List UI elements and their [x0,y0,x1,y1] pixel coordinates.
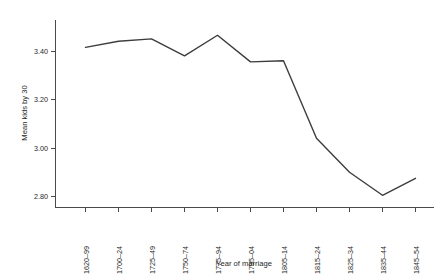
chart-background [0,0,446,279]
y-tick-label-1: 3.00 [34,144,48,153]
y-axis-title: Mean kids by 30 [20,85,29,140]
x-tick-label-9: 1835–44 [379,246,388,274]
chart-figure: 2.80 3.00 3.20 3.40 1620–99 1700–24 1725… [0,0,446,279]
y-tick-label-0: 2.80 [34,192,48,201]
x-tick-label-6: 1805–14 [280,246,289,274]
x-tick-label-0: 1620–99 [82,246,91,274]
x-tick-label-1: 1700–24 [115,246,124,274]
x-axis-title: Year of marriage [216,259,272,268]
y-tick-label-2: 3.20 [34,95,48,104]
x-tick-label-10: 1845–54 [412,246,421,274]
line-chart-svg: 2.80 3.00 3.20 3.40 1620–99 1700–24 1725… [0,0,446,279]
x-tick-label-3: 1750–74 [181,246,190,274]
x-tick-label-8: 1825–34 [346,246,355,274]
y-tick-label-3: 3.40 [34,47,48,56]
x-tick-label-2: 1725–49 [148,246,157,274]
x-tick-label-7: 1815–24 [313,246,322,274]
